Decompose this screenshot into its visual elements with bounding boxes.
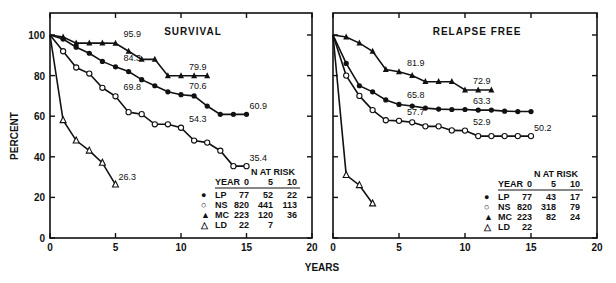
risk-count: 223 xyxy=(517,212,532,222)
legend-marker: △ xyxy=(483,222,492,232)
open-circle-marker xyxy=(357,93,362,98)
legend-marker: ○ xyxy=(484,202,489,212)
x-tick-label: 20 xyxy=(306,242,318,253)
filled-circle-marker xyxy=(528,109,533,114)
risk-table-col: 0 xyxy=(244,177,249,187)
value-annotation: 57.7 xyxy=(407,107,425,117)
open-circle-marker xyxy=(74,65,79,70)
filled-circle-marker xyxy=(231,112,236,117)
risk-count: 24 xyxy=(570,212,580,222)
value-annotation: 70.6 xyxy=(189,81,207,91)
risk-count: 820 xyxy=(517,202,532,212)
filled-circle-marker xyxy=(370,89,375,94)
legend-group-label: MC xyxy=(215,210,229,220)
open-triangle-marker xyxy=(356,182,362,188)
relapse-free-panel: 05101520RELAPSE FREE81.965.857.772.963.3… xyxy=(330,13,603,253)
legend-group-label: LD xyxy=(215,220,227,230)
open-triangle-marker xyxy=(343,171,349,177)
open-circle-marker xyxy=(218,148,223,153)
risk-table-col: 0 xyxy=(527,179,532,189)
filled-circle-marker xyxy=(244,112,249,117)
value-annotation: 65.8 xyxy=(407,90,425,100)
y-axis-label: PERCENT xyxy=(9,112,20,160)
filled-circle-marker xyxy=(489,108,494,113)
legend-group-label: MC xyxy=(498,212,512,222)
open-circle-marker xyxy=(462,128,467,133)
risk-table-col: 5 xyxy=(268,177,273,187)
filled-circle-marker xyxy=(449,107,454,112)
open-circle-marker xyxy=(528,133,533,138)
open-circle-marker xyxy=(192,138,197,143)
risk-table-col-year: YEAR xyxy=(498,179,524,189)
value-annotation: 60.9 xyxy=(250,101,268,111)
risk-count: 52 xyxy=(263,190,273,200)
filled-circle-marker xyxy=(178,92,183,97)
series-line-ns xyxy=(50,35,247,166)
open-circle-marker xyxy=(113,94,118,99)
legend-group-label: LP xyxy=(215,190,227,200)
x-tick-label: 15 xyxy=(525,242,537,253)
risk-count: 77 xyxy=(239,190,249,200)
value-annotation: 54.3 xyxy=(189,114,207,124)
legend-marker: ▲ xyxy=(484,212,493,222)
legend-group-label: NS xyxy=(215,200,228,210)
filled-circle-marker xyxy=(515,109,520,114)
open-circle-marker xyxy=(126,110,131,115)
risk-count: 22 xyxy=(239,220,249,230)
x-tick-label: 20 xyxy=(591,242,603,253)
x-tick-label: 5 xyxy=(113,242,119,253)
risk-table-col: 10 xyxy=(570,179,580,189)
open-circle-marker xyxy=(165,122,170,127)
value-annotation: 35.4 xyxy=(250,153,268,163)
filled-circle-marker xyxy=(344,61,349,66)
open-circle-marker xyxy=(515,133,520,138)
open-circle-marker xyxy=(370,108,375,113)
risk-table-col: 5 xyxy=(551,179,556,189)
value-annotation: 52.9 xyxy=(473,117,491,127)
y-tick-label: 20 xyxy=(34,192,46,203)
series-line-ns xyxy=(333,35,531,136)
risk-count: 22 xyxy=(287,190,297,200)
x-axis-label: YEARS xyxy=(305,262,340,273)
open-circle-marker xyxy=(61,49,66,54)
open-circle-marker xyxy=(423,124,428,129)
filled-circle-marker xyxy=(192,93,197,98)
filled-circle-marker xyxy=(383,97,388,102)
risk-count: 17 xyxy=(570,192,580,202)
x-tick-label: 10 xyxy=(175,242,187,253)
risk-count: 820 xyxy=(234,200,249,210)
x-tick-label: 0 xyxy=(330,242,336,253)
risk-count: 43 xyxy=(546,192,556,202)
open-triangle-marker xyxy=(60,117,66,123)
filled-circle-marker xyxy=(396,102,401,107)
filled-circle-marker xyxy=(61,36,66,41)
open-circle-marker xyxy=(502,133,507,138)
open-circle-marker xyxy=(87,71,92,76)
risk-count: 223 xyxy=(234,210,249,220)
y-tick-label: 0 xyxy=(39,233,45,244)
survival-relapse-chart: 05101520020406080100SURVIVAL95.984.369.8… xyxy=(0,0,616,283)
open-circle-marker xyxy=(178,125,183,130)
legend-marker: ▲ xyxy=(201,210,210,220)
open-circle-marker xyxy=(449,128,454,133)
filled-circle-marker xyxy=(87,51,92,56)
y-tick-label: 60 xyxy=(34,111,46,122)
x-tick-label: 5 xyxy=(396,242,402,253)
x-tick-label: 0 xyxy=(47,242,53,253)
x-tick-label: 15 xyxy=(241,242,253,253)
risk-count: 120 xyxy=(258,210,273,220)
risk-count: 22 xyxy=(522,222,532,232)
value-annotation: 50.2 xyxy=(534,123,552,133)
legend-marker: ● xyxy=(201,190,206,200)
legend-marker: ○ xyxy=(201,200,206,210)
open-circle-marker xyxy=(139,112,144,117)
filled-circle-marker xyxy=(126,69,131,74)
risk-count: 441 xyxy=(258,200,273,210)
y-tick-label: 80 xyxy=(34,71,46,82)
value-annotation: 79.9 xyxy=(189,62,207,72)
filled-circle-marker xyxy=(100,59,105,64)
risk-count: 82 xyxy=(546,212,556,222)
panel-title: RELAPSE FREE xyxy=(433,26,522,37)
risk-count: 77 xyxy=(522,192,532,202)
legend-group-label: LD xyxy=(498,222,510,232)
